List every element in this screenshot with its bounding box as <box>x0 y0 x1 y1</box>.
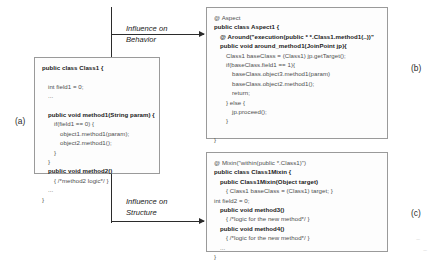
code-line: { /*logic for the new method*/ } <box>214 233 381 242</box>
code-line: public class Class1Mixin { <box>214 167 381 176</box>
figure-canvas: Influence on Behavior Influence on Struc… <box>0 0 436 276</box>
code-line: int field2 = 0; <box>214 196 381 205</box>
code-line: ... <box>214 243 381 252</box>
code-line: } <box>214 116 381 125</box>
code-line: int field1 = 0; <box>42 82 153 91</box>
code-line: baseClass.object3.method1(param) <box>214 69 381 78</box>
code-line: public void method2() <box>42 166 153 175</box>
code-line: object1.method1(param); <box>42 129 153 138</box>
decorative-speck-two: ~ <box>423 247 427 254</box>
connector-base-to-mixin-horizontal <box>111 221 204 222</box>
annotation-influence-on-behavior: Influence on Behavior <box>126 24 167 45</box>
code-line <box>42 101 153 110</box>
code-line: public void method4() <box>214 224 381 233</box>
code-line: @ Around("execution(public * *.Class1.me… <box>214 32 381 41</box>
code-line: } <box>42 157 153 166</box>
code-line: } else { <box>214 98 381 107</box>
code-line: @ Mixin("within(public *.Class1)") <box>214 158 381 167</box>
code-line: if(field1 == 0) { <box>42 119 153 128</box>
code-line: public class Aspect1 { <box>214 22 381 31</box>
code-line: ... <box>42 91 153 100</box>
mixin-code-box: @ Mixin("within(public *.Class1)")public… <box>206 152 388 252</box>
arrow-right-icon-structure <box>199 218 205 224</box>
code-line: baseClass.object2.method1(); <box>214 79 381 88</box>
base-class-code-box: public class Class1 { int field1 = 0;...… <box>34 57 160 174</box>
code-line: { /*method2 logic*/ } <box>42 176 153 185</box>
code-line: public class Class1 { <box>42 63 153 72</box>
code-line <box>42 72 153 81</box>
decorative-speck-one: ~ <box>416 236 420 243</box>
code-line: } <box>42 195 153 204</box>
connector-base-to-aspect-vertical <box>111 7 112 57</box>
code-line: } <box>214 252 381 261</box>
code-line: public Class1Mixin(Object target) <box>214 177 381 186</box>
aspect-code-box: @ Aspectpublic class Aspect1 {@ Around("… <box>206 7 388 139</box>
code-line: } <box>214 135 381 144</box>
code-line: jp.proceed(); <box>214 107 381 116</box>
code-line: Class1 baseClass = (Class1) jp.getTarget… <box>214 51 381 60</box>
code-line: if(baseClass.field1 == 1){ <box>214 60 381 69</box>
arrow-right-icon-behavior <box>199 31 205 37</box>
code-line: object2.method1(); <box>42 138 153 147</box>
code-line: return; <box>214 88 381 97</box>
code-line: public void method1(String param) { <box>42 110 153 119</box>
part-label-a: (a) <box>15 116 25 126</box>
code-line: public void around_method1(JoinPoint jp)… <box>214 41 381 50</box>
code-line: public void method3() <box>214 205 381 214</box>
code-line: ... <box>42 185 153 194</box>
part-label-b: (b) <box>411 63 421 73</box>
code-line <box>214 126 381 135</box>
code-line: { Class1 baseClass = (Class1) target; } <box>214 186 381 195</box>
code-line: @ Aspect <box>214 13 381 22</box>
code-line: { /*logic for the new method*/ } <box>214 214 381 223</box>
part-label-c: (c) <box>411 208 421 218</box>
code-line: } <box>42 148 153 157</box>
